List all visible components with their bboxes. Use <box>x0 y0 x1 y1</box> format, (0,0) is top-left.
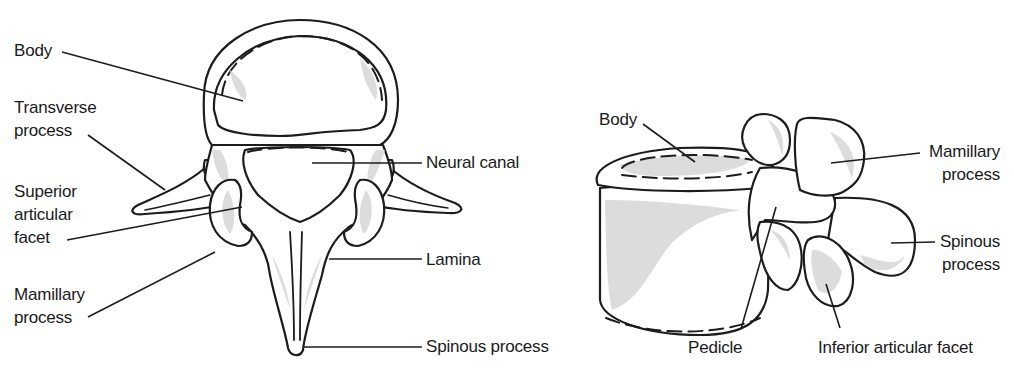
label-mamillary-process-lateral: Mamillary process <box>904 140 1000 186</box>
lateral-view-vertebra <box>597 114 915 335</box>
label-pedicle: Pedicle <box>688 336 742 359</box>
label-superior-articular-facet: Superior articular facet <box>14 180 77 249</box>
label-inferior-articular-facet: Inferior articular facet <box>818 336 973 359</box>
superior-view-vertebra <box>132 20 461 355</box>
label-body-superior: Body <box>14 39 52 62</box>
label-spinous-process-superior: Spinous process <box>426 335 549 358</box>
vertebra-diagram <box>0 0 1014 386</box>
label-body-lateral: Body <box>599 108 637 131</box>
label-lamina: Lamina <box>426 248 481 271</box>
label-spinous-process-lateral: Spinous process <box>904 230 1000 276</box>
label-neural-canal: Neural canal <box>426 151 519 174</box>
label-mamillary-process-superior: Mamillary process <box>14 283 85 329</box>
label-transverse-process: Transverse process <box>14 96 96 142</box>
